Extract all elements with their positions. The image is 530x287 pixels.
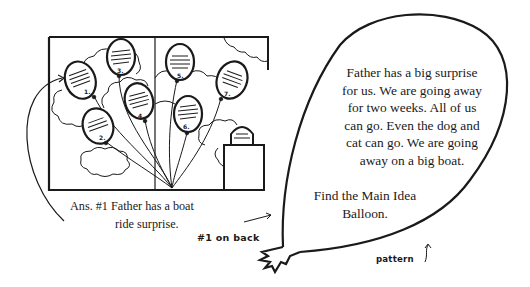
instruction-line: Find the Main Idea: [300, 187, 430, 205]
answer-line-1: Ans. #1 Father has a boat: [70, 199, 194, 214]
mailbox: [224, 127, 264, 190]
svg-text:1.: 1.: [84, 88, 90, 95]
svg-text:5.: 5.: [177, 72, 183, 79]
story-line: for us. We are going away: [324, 82, 500, 100]
pattern-label: pattern: [376, 254, 414, 264]
answer-line-2: ride surprise.: [115, 217, 179, 232]
story-line: away on a big boat.: [324, 152, 500, 170]
svg-text:6.: 6.: [183, 123, 189, 130]
svg-text:4.: 4.: [138, 112, 144, 119]
svg-text:7.: 7.: [224, 90, 230, 97]
story-line: Father has a big surprise: [324, 64, 500, 82]
balloon-7: [211, 57, 252, 103]
instruction-line: Balloon.: [300, 205, 430, 223]
svg-text:3.: 3.: [117, 67, 123, 74]
story-line: cat can go. We are going: [324, 134, 500, 152]
story-text: Father has a big surprise for us. We are…: [324, 64, 500, 170]
svg-text:2.: 2.: [99, 134, 105, 141]
instruction-text: Find the Main Idea Balloon.: [300, 187, 430, 223]
on-back-note: #1 on back: [197, 232, 260, 243]
balloon-2: [78, 104, 119, 148]
story-line: for two weeks. All of us: [324, 99, 500, 117]
pointer-arrow: [27, 75, 64, 221]
story-line: can go. Even the dog and: [324, 117, 500, 135]
